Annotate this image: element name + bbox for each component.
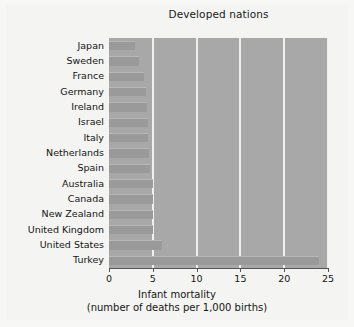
x-axis-tick-label: 0 bbox=[106, 273, 112, 284]
x-axis-line bbox=[109, 268, 328, 269]
x-axis-tick-label: 15 bbox=[234, 273, 246, 284]
bar bbox=[109, 118, 148, 127]
x-axis-tick-mark bbox=[240, 268, 241, 272]
x-axis-tick-label: 20 bbox=[278, 273, 290, 284]
bar bbox=[109, 102, 147, 111]
y-axis-tick-label: Japan bbox=[78, 41, 105, 51]
bar bbox=[109, 194, 153, 203]
plot-area bbox=[109, 38, 328, 268]
y-axis-tick-label: Ireland bbox=[71, 102, 104, 112]
bar-row bbox=[109, 84, 328, 99]
y-axis-tick-label: Italy bbox=[83, 133, 104, 143]
chart-title: Developed nations bbox=[109, 8, 328, 20]
bar-row bbox=[109, 69, 328, 84]
x-axis-tick-mark bbox=[109, 268, 110, 272]
bar-row bbox=[109, 145, 328, 160]
bar bbox=[109, 164, 150, 173]
bar-row bbox=[109, 130, 328, 145]
bar bbox=[109, 210, 153, 219]
y-axis-tick-label: Sweden bbox=[66, 56, 104, 66]
y-axis-tick-label: Turkey bbox=[73, 255, 104, 265]
bar bbox=[109, 41, 135, 50]
y-axis-tick-label: Canada bbox=[68, 194, 104, 204]
bar-row bbox=[109, 253, 328, 268]
bar-row bbox=[109, 222, 328, 237]
x-axis-title: Infant mortality (number of deaths per 1… bbox=[0, 288, 354, 314]
y-axis-tick-label: United States bbox=[40, 240, 104, 250]
y-axis-tick-label: Israel bbox=[78, 117, 104, 127]
y-axis-tick-label: Germany bbox=[60, 87, 104, 97]
x-axis-tick-mark bbox=[197, 268, 198, 272]
bar bbox=[109, 56, 139, 65]
y-axis-tick-label: New Zealand bbox=[42, 209, 104, 219]
chart-figure: Developed nations JapanSwedenFranceGerma… bbox=[0, 0, 354, 327]
y-axis-tick-label: Spain bbox=[77, 163, 104, 173]
x-axis-tick-mark bbox=[328, 268, 329, 272]
bar bbox=[109, 72, 144, 81]
x-axis-title-line1: Infant mortality bbox=[0, 288, 354, 301]
x-axis-tick-label: 25 bbox=[322, 273, 334, 284]
bar bbox=[109, 225, 153, 234]
bar-row bbox=[109, 191, 328, 206]
bar-row bbox=[109, 115, 328, 130]
bar-row bbox=[109, 207, 328, 222]
bar-row bbox=[109, 176, 328, 191]
bar bbox=[109, 256, 319, 265]
bar-row bbox=[109, 237, 328, 252]
x-axis-tick-label: 5 bbox=[150, 273, 156, 284]
bar-row bbox=[109, 38, 328, 53]
bar bbox=[109, 179, 153, 188]
bar bbox=[109, 133, 148, 142]
y-axis-tick-label: United Kingdom bbox=[28, 225, 104, 235]
y-axis-category-labels: JapanSwedenFranceGermanyIrelandIsraelIta… bbox=[0, 38, 104, 268]
bar bbox=[109, 87, 146, 96]
y-axis-tick-label: Netherlands bbox=[46, 148, 104, 158]
bar-row bbox=[109, 53, 328, 68]
y-axis-tick-label: France bbox=[72, 71, 104, 81]
x-axis-title-line2: (number of deaths per 1,000 births) bbox=[0, 301, 354, 314]
bar bbox=[109, 148, 149, 157]
bar bbox=[109, 240, 162, 249]
x-axis-tick-label: 10 bbox=[191, 273, 203, 284]
bar-row bbox=[109, 99, 328, 114]
x-axis-tick-mark bbox=[153, 268, 154, 272]
bar-row bbox=[109, 161, 328, 176]
y-axis-tick-label: Australia bbox=[62, 179, 104, 189]
x-axis-tick-mark bbox=[284, 268, 285, 272]
